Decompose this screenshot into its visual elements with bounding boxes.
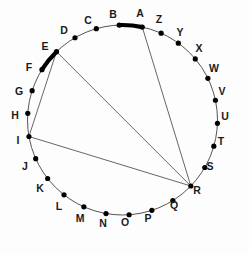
vertex-dot-z[interactable] [159, 31, 164, 36]
vertex-dot-m[interactable] [81, 204, 86, 209]
vertex-dot-h[interactable] [25, 111, 30, 116]
circle-graph-figure: ABCDEFGHIJKLMNOPQRSTUVWXYZ [0, 0, 249, 254]
vertex-dot-n[interactable] [103, 211, 108, 216]
vertex-dot-k[interactable] [45, 176, 50, 181]
vertex-dot-w[interactable] [205, 76, 210, 81]
vertex-label-j: J [22, 160, 28, 172]
vertex-label-v: V [218, 85, 225, 97]
vertex-dot-a[interactable] [140, 24, 145, 29]
vertex-dot-f[interactable] [39, 67, 44, 72]
vertex-label-w: W [209, 62, 219, 74]
vertex-label-d: D [60, 24, 68, 36]
vertex-label-c: C [84, 14, 92, 26]
vertex-dot-y[interactable] [176, 41, 181, 46]
vertex-label-y: Y [176, 26, 183, 38]
vertex-label-f: F [26, 61, 33, 73]
vertex-label-h: H [11, 109, 19, 121]
vertex-label-r: R [193, 184, 201, 196]
vertex-dot-d[interactable] [72, 35, 77, 40]
vertex-dot-x[interactable] [193, 56, 198, 61]
vertex-label-k: K [36, 182, 44, 194]
graph-canvas: ABCDEFGHIJKLMNOPQRSTUVWXYZ [0, 0, 249, 254]
vertex-label-x: X [195, 42, 202, 54]
vertex-label-b: B [109, 8, 117, 20]
vertex-label-n: N [99, 217, 107, 229]
vertex-dot-c[interactable] [94, 26, 99, 31]
vertex-dot-u[interactable] [215, 121, 220, 126]
vertex-label-p: P [144, 212, 151, 224]
vertex-dot-v[interactable] [213, 98, 218, 103]
highlighted-arc-b-a [119, 25, 142, 27]
vertex-dot-l[interactable] [61, 192, 66, 197]
vertex-label-i: I [17, 134, 20, 146]
vertex-dot-i[interactable] [26, 134, 31, 139]
vertex-dot-e[interactable] [54, 49, 59, 54]
vertex-label-e: E [41, 40, 48, 52]
vertex-label-m: M [76, 212, 85, 224]
vertex-label-s: S [206, 160, 213, 172]
vertex-label-l: L [56, 200, 63, 212]
vertex-label-t: T [218, 135, 225, 147]
vertex-dot-b[interactable] [117, 22, 122, 27]
vertex-label-q: Q [170, 199, 178, 211]
vertex-dot-t[interactable] [211, 144, 216, 149]
vertex-label-o: O [121, 216, 129, 228]
vertex-label-u: U [221, 110, 229, 122]
vertex-dot-j[interactable] [33, 156, 38, 161]
vertex-label-a: A [136, 7, 144, 19]
vertex-label-z: Z [156, 13, 163, 25]
vertex-label-g: G [15, 85, 23, 97]
vertex-dot-g[interactable] [30, 88, 35, 93]
